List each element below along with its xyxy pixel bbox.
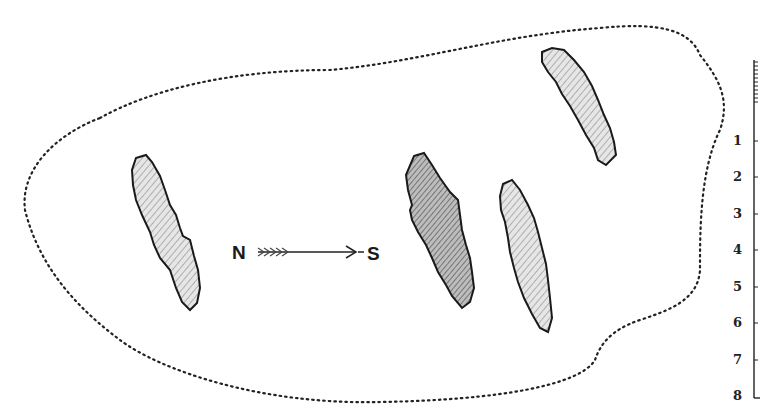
stone-feature-3 — [500, 180, 552, 332]
site-plan-figure: N S 1 2 3 4 5 6 7 8 — [0, 0, 774, 419]
scale-tick-7: 7 — [726, 353, 742, 366]
scale-tick-8: 8 — [726, 389, 742, 402]
scale-tick-3: 3 — [726, 207, 742, 220]
scale-tick-1: 1 — [726, 134, 742, 147]
site-boundary-outline — [25, 26, 724, 402]
scale-tick-6: 6 — [726, 316, 742, 329]
stone-feature-4 — [542, 48, 616, 165]
compass-north-label: N — [232, 243, 246, 262]
scale-tick-5: 5 — [726, 280, 742, 293]
stone-feature-1 — [132, 155, 200, 310]
stone-feature-2 — [406, 153, 474, 308]
compass-arrow-icon — [258, 246, 364, 258]
scale-bar — [754, 60, 760, 398]
compass-south-label: S — [367, 244, 380, 263]
scale-tick-2: 2 — [726, 170, 742, 183]
scale-tick-4: 4 — [726, 243, 742, 256]
